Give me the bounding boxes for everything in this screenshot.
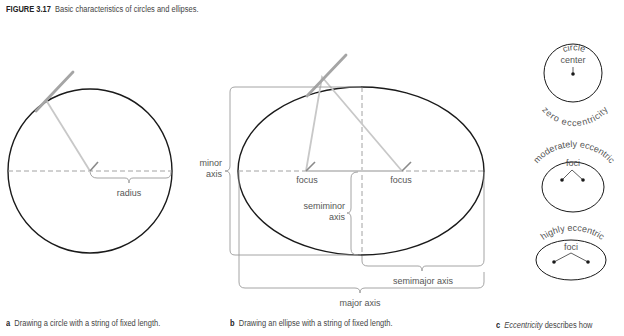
major-axis-label: major axis <box>339 298 381 308</box>
zero-eccentricity-label: zero eccentricity <box>540 104 610 128</box>
caption-a-text: Drawing a circle with a string of fixed … <box>14 318 160 328</box>
major-axis-bracket <box>239 172 484 293</box>
caption-b-text: Drawing an ellipse with a string of fixe… <box>239 318 393 328</box>
caption-b-letter: b <box>230 318 235 328</box>
pin-icon <box>90 162 98 171</box>
semimajor-axis-bracket <box>362 172 484 271</box>
minor-axis-label-line2: axis <box>206 169 223 179</box>
semiminor-axis-bracket <box>347 172 358 255</box>
moderate-ellipse <box>542 162 604 212</box>
high-foci-label: foci <box>564 242 578 252</box>
radius-label: radius <box>117 188 142 198</box>
highly-eccentric-label: highly eccentric <box>539 223 607 242</box>
panel-b-ellipse-diagram: focus focus minor axis semiminor axis se… <box>199 55 484 308</box>
caption-a: a Drawing a circle with a string of fixe… <box>6 318 160 328</box>
semimajor-label: semimajor axis <box>393 276 454 286</box>
figure: FIGURE 3.17 Basic characteristics of cir… <box>0 0 624 336</box>
foci-pointer-lines <box>562 170 583 180</box>
minor-axis-label-line1: minor <box>199 158 222 168</box>
caption-a-letter: a <box>6 318 10 328</box>
caption-b: b Drawing an ellipse with a string of fi… <box>230 318 393 328</box>
caption-c-letter: c <box>496 320 500 330</box>
semiminor-label-line1: semiminor <box>303 201 345 211</box>
pin-icon-right <box>402 162 411 171</box>
caption-c: c Eccentricity describes how <box>496 320 592 330</box>
string-line <box>46 100 90 171</box>
focus-left-label: focus <box>296 175 318 185</box>
circle-label: circle <box>561 42 586 54</box>
moderate-foci-label: foci <box>566 158 580 168</box>
semiminor-label-line2: axis <box>329 212 346 222</box>
focus-right-label: focus <box>390 175 412 185</box>
caption-c-italic: Eccentricity <box>504 320 542 330</box>
foci-pointer-lines <box>554 253 588 262</box>
diagram-canvas: radius focus focus minor axis semiminor … <box>0 0 624 336</box>
center-label: center <box>560 55 585 65</box>
panel-c-eccentricity-diagram: center circle zero eccentricity foci mod… <box>531 42 617 280</box>
radius-bracket <box>90 172 171 183</box>
string-line <box>306 77 402 171</box>
panel-a-circle-diagram: radius <box>8 72 172 253</box>
caption-c-text: describes how <box>543 320 593 330</box>
